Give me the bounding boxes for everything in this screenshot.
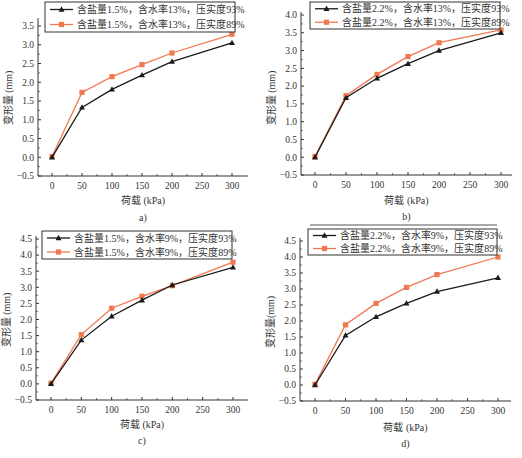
x-tick-label: 50: [341, 180, 351, 190]
legend-item: 含盐量1.5%，含水率9%，压实度89%: [47, 246, 237, 258]
square-marker-icon: [230, 260, 235, 265]
panel-caption: d): [401, 438, 409, 450]
legend-label: 含盐量2.2%，含水率9%，压实度89%: [340, 242, 503, 254]
x-tick-label: 300: [225, 181, 240, 191]
x-tick-label: 100: [370, 180, 385, 190]
x-tick-label: 300: [494, 180, 509, 190]
x-axis-label: 荷载 (kPa): [383, 422, 427, 434]
chart-a: −0.50.00.51.01.52.02.53.03.5050100150200…: [2, 2, 248, 224]
figure-canvas: −0.50.00.51.01.52.02.53.03.5050100150200…: [0, 0, 522, 458]
legend-label: 含盐量1.5%，含水率13%，压实度93%: [77, 3, 245, 15]
y-tick-label: 4.0: [20, 250, 32, 260]
y-tick-label: 4.0: [284, 252, 296, 262]
y-tick-label: 0.5: [20, 363, 32, 373]
x-tick-label: 250: [196, 405, 211, 415]
triangle-marker-icon: [230, 264, 236, 269]
data-series-93: [48, 264, 236, 386]
chart-d: −0.50.00.51.01.52.02.53.03.54.04.5050100…: [264, 229, 511, 450]
y-tick-label: 2.5: [285, 64, 297, 74]
square-marker-icon: [373, 301, 378, 306]
x-tick-label: 200: [165, 405, 180, 415]
x-tick-label: 300: [491, 406, 506, 416]
y-tick-label: 0.0: [22, 153, 34, 163]
legend-label: 含盐量1.5%，含水率13%，压实度89%: [77, 18, 245, 30]
legend: 含盐量2.2%，含水率13%，压实度93%含盐量2.2%，含水率13%，压实度8…: [310, 2, 510, 29]
y-tick-label: −0.5: [279, 396, 296, 406]
y-tick-label: 4.5: [20, 234, 32, 244]
y-axis-label: 变形量 (mm): [0, 293, 13, 348]
square-marker-icon: [434, 272, 439, 277]
x-tick-label: 100: [105, 405, 120, 415]
square-marker-icon: [109, 74, 114, 79]
x-axis-label: 荷载 (kPa): [384, 195, 428, 207]
square-marker-icon: [436, 40, 441, 45]
chart-c: −0.50.00.51.01.52.02.53.03.54.04.5050100…: [0, 231, 248, 447]
data-series-93: [312, 30, 504, 160]
y-tick-label: 1.5: [285, 99, 297, 109]
square-marker-icon: [56, 249, 61, 254]
y-tick-label: 3.5: [285, 28, 297, 38]
y-tick-label: 3.5: [22, 21, 34, 31]
y-tick-label: 2.0: [22, 78, 34, 88]
chart-b: −0.50.00.51.01.52.02.53.03.54.0050100150…: [265, 2, 512, 223]
y-tick-label: 3.5: [20, 267, 32, 277]
legend-label: 含盐量1.5%，含水率9%，压实度89%: [74, 246, 237, 258]
x-tick-label: 0: [50, 181, 55, 191]
legend-item: 含盐量1.5%，含水率13%，压实度89%: [50, 18, 245, 30]
square-marker-icon: [324, 20, 329, 25]
legend: 含盐量1.5%，含水率9%，压实度93%含盐量1.5%，含水率9%，压实度89%: [42, 231, 237, 259]
x-tick-label: 150: [135, 405, 150, 415]
y-axis-label: 变形量(mm): [264, 296, 277, 348]
y-tick-label: 2.0: [285, 81, 297, 91]
panel-caption: b): [402, 211, 410, 223]
y-tick-label: 0.0: [284, 380, 296, 390]
x-tick-label: 250: [460, 406, 475, 416]
legend: 含盐量2.2%，含水率9%，压实度93%含盐量2.2%，含水率9%，压实度89%: [308, 229, 503, 255]
x-tick-label: 100: [369, 406, 384, 416]
series-line: [315, 257, 498, 384]
series-line: [51, 262, 233, 383]
y-tick-label: 4.5: [284, 236, 296, 246]
y-tick-label: 3.0: [284, 284, 296, 294]
square-marker-icon: [404, 285, 409, 290]
y-tick-label: 3.0: [22, 40, 34, 50]
legend-label: 含盐量2.2%，含水率13%，压实度93%: [342, 2, 510, 14]
series-line: [315, 33, 501, 157]
y-tick-label: 2.5: [22, 59, 34, 69]
x-tick-label: 100: [105, 181, 120, 191]
y-tick-label: 3.0: [20, 283, 32, 293]
y-axis-label: 变形量 (mm): [265, 71, 278, 126]
triangle-marker-icon: [343, 332, 349, 337]
x-tick-label: 50: [341, 406, 351, 416]
series-line: [315, 30, 501, 157]
legend-item: 含盐量1.5%，含水率13%，压实度93%: [50, 3, 245, 15]
square-marker-icon: [79, 90, 84, 95]
data-series-93: [49, 40, 235, 160]
legend-item: 含盐量1.5%，含水率9%，压实度93%: [47, 232, 237, 244]
x-tick-label: 50: [77, 405, 87, 415]
y-tick-label: 1.5: [284, 332, 296, 342]
x-tick-label: 150: [399, 406, 414, 416]
x-tick-label: 150: [401, 180, 416, 190]
x-tick-label: 50: [77, 181, 87, 191]
legend-item: 含盐量2.2%，含水率13%，压实度93%: [315, 2, 510, 14]
y-tick-label: 2.5: [20, 299, 32, 309]
y-tick-label: 2.5: [284, 300, 296, 310]
x-tick-label: 0: [49, 405, 54, 415]
y-tick-label: 0.0: [285, 153, 297, 163]
legend-item: 含盐量2.2%，含水率9%，压实度93%: [313, 229, 503, 241]
panel-caption: c): [138, 435, 146, 447]
x-axis-label: 荷载 (kPa): [121, 195, 165, 207]
y-tick-label: 0.5: [284, 364, 296, 374]
y-tick-label: 1.0: [284, 348, 296, 358]
x-tick-label: 150: [135, 181, 150, 191]
y-tick-label: −0.5: [15, 395, 32, 405]
y-axis-label: 变形量 (mm): [2, 71, 15, 126]
triangle-marker-icon: [495, 275, 501, 280]
x-tick-label: 200: [430, 406, 445, 416]
square-marker-icon: [79, 332, 84, 337]
y-tick-label: −0.5: [17, 171, 34, 181]
x-tick-label: 250: [195, 181, 210, 191]
x-axis-label: 荷载 (kPa): [120, 419, 164, 431]
panel-caption: a): [139, 212, 147, 224]
